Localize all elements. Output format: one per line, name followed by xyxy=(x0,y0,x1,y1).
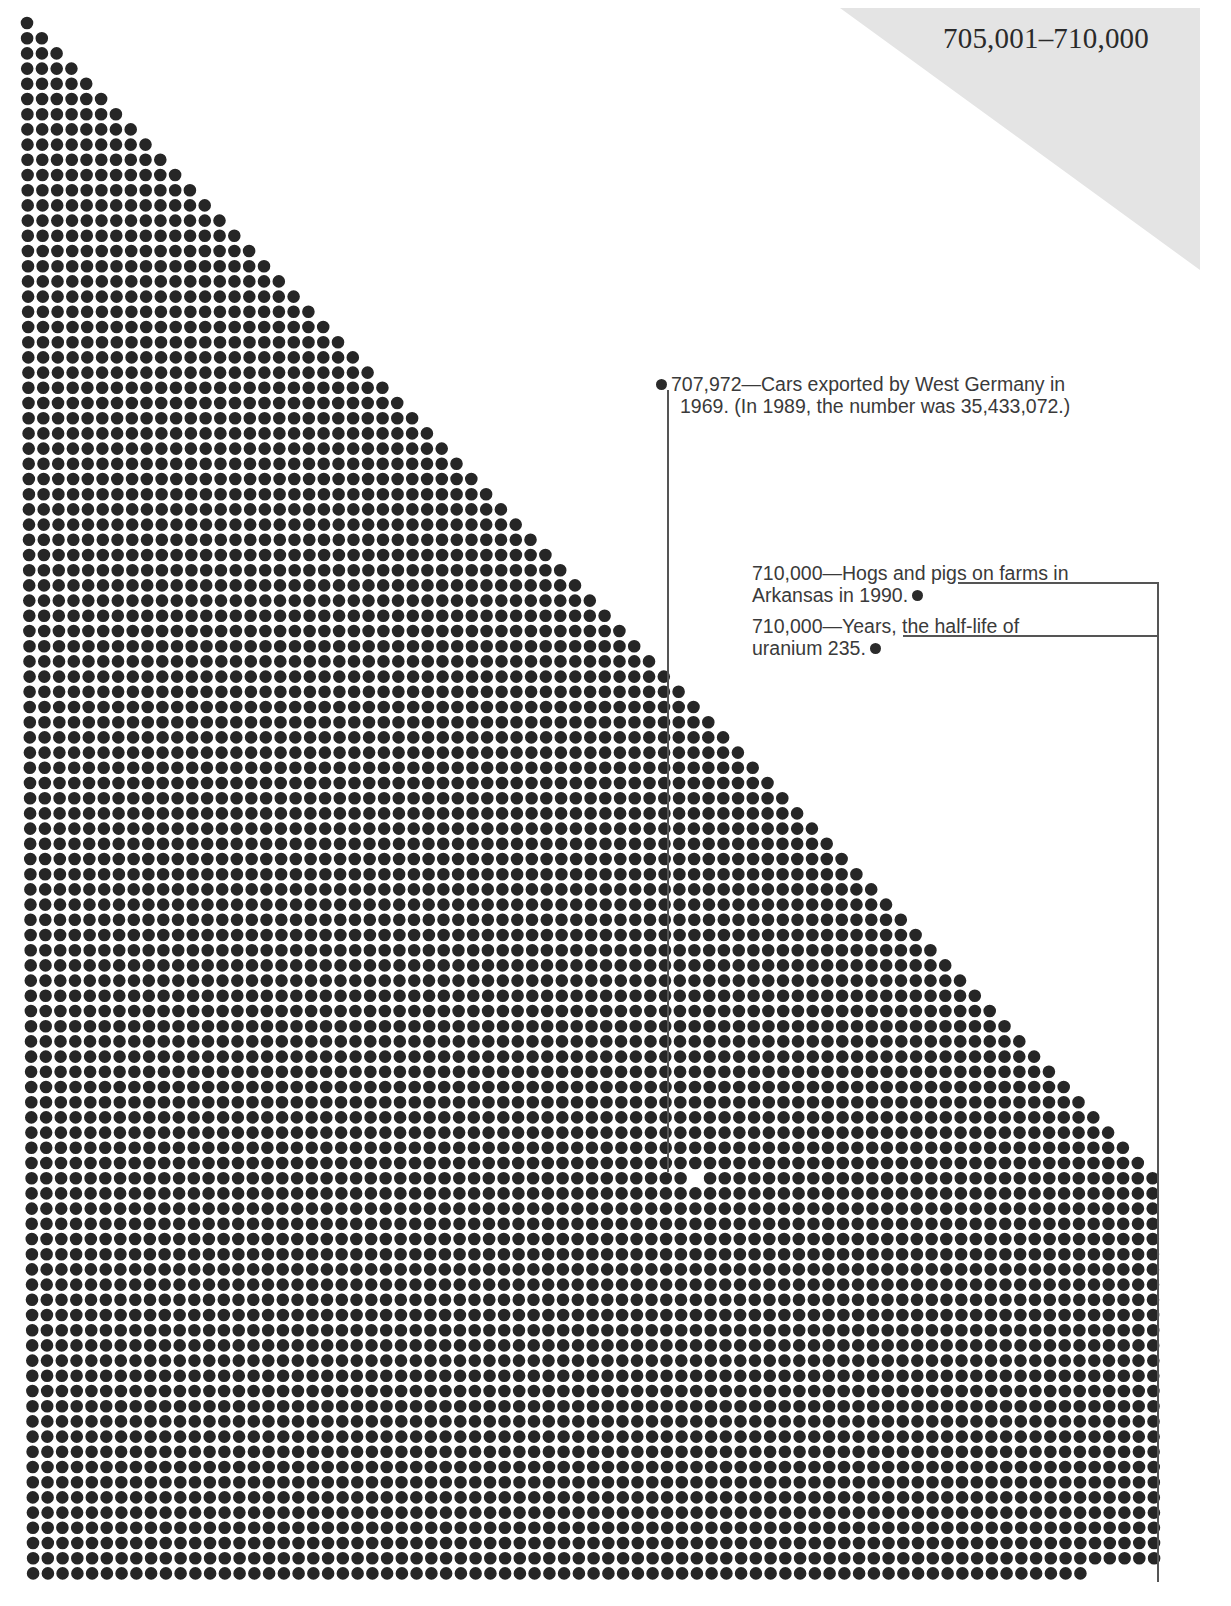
annotation-text: —Years, the half-life of xyxy=(823,615,1020,637)
leader-line-uranium xyxy=(903,635,1159,637)
annotation-text-line2: 1969. (In 1989, the number was 35,433,07… xyxy=(656,395,1070,417)
annotation-value: 710,000 xyxy=(752,562,823,584)
dots xyxy=(21,17,1161,1580)
marker-dot-icon xyxy=(870,643,881,654)
dot-field xyxy=(0,0,1231,1606)
annotation-value: 707,972 xyxy=(671,373,742,395)
leader-line-right-connector xyxy=(1157,582,1159,1582)
marker-dot-icon xyxy=(656,379,667,390)
annotation-text-line2: Arkansas in 1990. xyxy=(752,584,908,606)
annotation-uranium: 710,000—Years, the half-life of uranium … xyxy=(752,615,1019,659)
annotation-value: 710,000 xyxy=(752,615,823,637)
page: 705,001–710,000 707,972—Cars exported by… xyxy=(0,0,1231,1606)
annotation-text: —Cars exported by West Germany in xyxy=(742,373,1066,395)
annotation-cars: 707,972—Cars exported by West Germany in… xyxy=(656,373,1070,417)
annotation-text: —Hogs and pigs on farms in xyxy=(823,562,1069,584)
annotation-text-line2: uranium 235. xyxy=(752,637,866,659)
annotation-hogs: 710,000—Hogs and pigs on farms in Arkans… xyxy=(752,562,1069,606)
marker-dot-icon xyxy=(912,590,923,601)
leader-line-cars xyxy=(667,390,669,1172)
leader-line-hogs xyxy=(958,582,1159,584)
